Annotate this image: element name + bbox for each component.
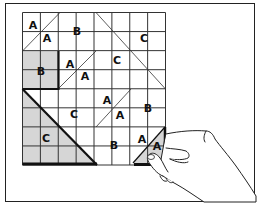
piece-label-a: A: [103, 94, 112, 107]
piece-label-b: B: [110, 139, 118, 152]
piece-label-b: B: [144, 102, 152, 115]
piece-label-c: C: [70, 108, 78, 121]
piece-label-c: C: [113, 54, 121, 67]
piece-label-b: B: [37, 65, 45, 78]
piece-label-c: C: [42, 132, 50, 145]
piece-label-a: A: [116, 109, 125, 122]
piece-label-a: A: [153, 140, 162, 153]
piece-label-a: A: [138, 133, 147, 146]
piece-label-a: A: [29, 19, 38, 32]
piece-label-a: A: [43, 32, 52, 45]
quilt-diagram: AABCBAACAACBCBAA: [0, 0, 263, 210]
piece-label-b: B: [73, 25, 81, 38]
piece-label-a: A: [66, 58, 75, 71]
piece-label-c: C: [140, 32, 148, 45]
thumbnail-icon: [148, 155, 155, 160]
piece-label-a: A: [81, 70, 90, 83]
